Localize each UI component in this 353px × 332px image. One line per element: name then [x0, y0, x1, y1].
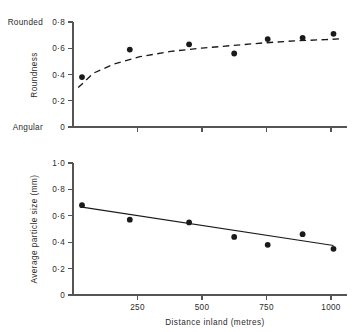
- data-point: [231, 51, 237, 57]
- roundness-y-axis-title: Roundness: [30, 52, 39, 97]
- data-point: [186, 220, 192, 226]
- roundness-label-angular: Angular: [13, 123, 43, 132]
- particle-size-xtick-250: 250: [130, 303, 145, 312]
- two-panel-scatter-figure: 0·8 0·6 0·4 0·2 0 Rounded Angular Roundn…: [0, 0, 353, 332]
- data-point: [127, 217, 133, 223]
- particle-size-xtick-1000: 1000: [321, 303, 341, 312]
- particle-size-datapoints: [79, 202, 336, 251]
- roundness-ytick-0-6: 0·6: [52, 44, 65, 53]
- data-point: [331, 246, 337, 252]
- roundness-y-ticks: [68, 22, 73, 127]
- chart-particle-size: 1·0 0·8 0·6 0·4 0·2 0 Average particle s…: [30, 159, 347, 327]
- particle-size-ytick-1-0: 1·0: [52, 159, 65, 168]
- particle-size-ytick-0: 0: [60, 291, 65, 300]
- data-point: [186, 41, 192, 47]
- data-point: [231, 234, 237, 240]
- roundness-ytick-0: 0: [60, 123, 65, 132]
- data-point: [300, 35, 306, 41]
- data-point: [265, 242, 271, 248]
- data-point: [79, 74, 85, 80]
- particle-size-xtick-500: 500: [195, 303, 210, 312]
- particle-size-y-ticks: [68, 163, 73, 295]
- chart-roundness: 0·8 0·6 0·4 0·2 0 Rounded Angular Roundn…: [8, 18, 347, 132]
- particle-size-ytick-0-2: 0·2: [52, 265, 65, 274]
- data-point: [127, 47, 133, 53]
- roundness-datapoints: [79, 31, 336, 80]
- roundness-label-rounded: Rounded: [8, 18, 43, 27]
- particle-size-xtick-750: 750: [259, 303, 274, 312]
- particle-size-x-ticks: [138, 295, 332, 300]
- particle-size-ytick-0-8: 0·8: [52, 185, 65, 194]
- roundness-x-ticks: [138, 127, 332, 132]
- particle-size-ytick-0-4: 0·4: [52, 238, 65, 247]
- roundness-ytick-0-4: 0·4: [52, 71, 65, 80]
- particle-size-ytick-0-6: 0·6: [52, 212, 65, 221]
- roundness-ytick-0-2: 0·2: [52, 97, 65, 106]
- particle-size-y-axis-title: Average particle size (mm): [30, 175, 39, 284]
- particle-size-x-axis-title: Distance inland (metres): [165, 318, 265, 327]
- data-point: [79, 202, 85, 208]
- data-point: [331, 31, 337, 37]
- particle-size-trend-line: [82, 207, 334, 245]
- roundness-ytick-0-8: 0·8: [52, 18, 65, 27]
- data-point: [300, 231, 306, 237]
- figure-container: 0·8 0·6 0·4 0·2 0 Rounded Angular Roundn…: [0, 0, 353, 332]
- roundness-trend-curve: [78, 39, 343, 88]
- data-point: [265, 36, 271, 42]
